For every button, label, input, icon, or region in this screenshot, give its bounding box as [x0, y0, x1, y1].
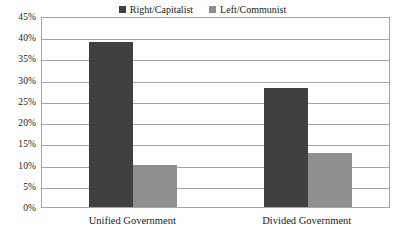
y-axis-tick-label: 20% [0, 118, 36, 128]
y-axis-tick-label: 30% [0, 76, 36, 86]
x-axis-category-label: Unified Government [52, 214, 212, 227]
legend-label: Left/Communist [220, 4, 286, 15]
chart-legend: Right/CapitalistLeft/Communist [0, 4, 405, 15]
y-axis-tick-label: 5% [0, 182, 36, 192]
bar-chart: 0%5%10%15%20%25%30%35%40%45% Right/Capit… [0, 0, 405, 250]
y-axis-tick-label: 35% [0, 54, 36, 64]
y-axis-tick-label: 10% [0, 161, 36, 171]
y-axis-tick-label: 45% [0, 12, 36, 22]
x-axis-category-labels: Unified GovernmentDivided Government [41, 214, 390, 234]
y-axis-tick-label: 0% [0, 203, 36, 213]
x-axis-category-label: Divided Government [227, 214, 387, 227]
legend-item[interactable]: Left/Communist [209, 4, 286, 15]
bar[interactable] [89, 42, 133, 207]
legend-item[interactable]: Right/Capitalist [119, 4, 193, 15]
y-axis-tick-labels: 0%5%10%15%20%25%30%35%40%45% [0, 17, 36, 208]
bar[interactable] [308, 153, 352, 207]
y-axis-tick-label: 40% [0, 33, 36, 43]
legend-swatch-icon [119, 6, 126, 13]
bar[interactable] [133, 165, 177, 207]
legend-swatch-icon [209, 6, 216, 13]
y-axis-tick-label: 15% [0, 139, 36, 149]
bar[interactable] [264, 88, 308, 207]
y-axis-tick-label: 25% [0, 97, 36, 107]
plot-area [41, 17, 390, 208]
bars-layer [42, 18, 389, 207]
legend-label: Right/Capitalist [130, 4, 193, 15]
